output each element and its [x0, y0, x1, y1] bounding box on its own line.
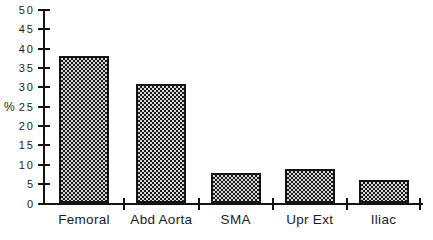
- y-tick-label-35: 35: [0, 61, 35, 75]
- y-tick-30: [38, 86, 50, 88]
- y-tick-45: [38, 28, 50, 30]
- bar-sma: [211, 173, 261, 204]
- y-tick-40: [38, 48, 50, 50]
- y-tick-20: [38, 125, 50, 127]
- y-tick-label-50: 50: [0, 3, 35, 17]
- y-tick-label-0: 0: [0, 197, 35, 211]
- y-tick-label-5: 5: [0, 177, 35, 191]
- y-tick-label-10: 10: [0, 158, 35, 172]
- y-tick-label-30: 30: [0, 80, 35, 94]
- bar-abd-aorta: [136, 84, 186, 204]
- y-tick-label-15: 15: [0, 138, 35, 152]
- y-tick-25: [38, 106, 50, 108]
- category-label-iliac: Iliac: [339, 212, 429, 228]
- y-tick-label-20: 20: [0, 119, 35, 133]
- x-tick-5: [419, 198, 421, 210]
- y-tick-15: [38, 144, 50, 146]
- x-tick-3: [272, 198, 274, 210]
- y-tick-5: [38, 183, 50, 185]
- y-tick-label-45: 45: [0, 22, 35, 36]
- y-tick-50: [38, 9, 50, 11]
- bar-femoral: [59, 56, 109, 203]
- y-tick-0: [38, 203, 50, 205]
- x-tick-4: [346, 198, 348, 210]
- x-tick-1: [123, 198, 125, 210]
- y-tick-10: [38, 164, 50, 166]
- x-tick-2: [198, 198, 200, 210]
- bar-iliac: [359, 180, 409, 203]
- y-tick-label-40: 40: [0, 42, 35, 56]
- y-tick-label-25: 25: [0, 100, 35, 114]
- y-tick-35: [38, 67, 50, 69]
- bar-chart-figure: % 05101520253035404550 FemoralAbd AortaS…: [0, 0, 433, 240]
- bar-upr-ext: [285, 169, 335, 204]
